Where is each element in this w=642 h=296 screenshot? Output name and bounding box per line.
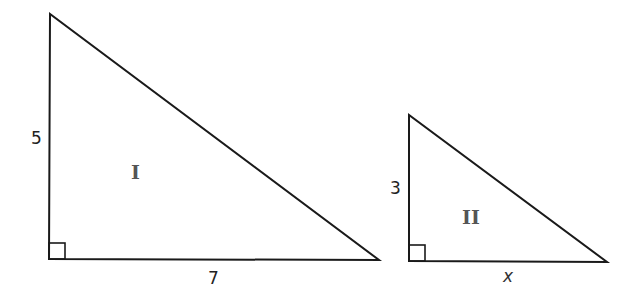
right-angle-marker-2 <box>409 245 425 261</box>
right-angle-marker-1 <box>49 243 65 259</box>
similar-triangles-diagram: 5 7 I 3 x II <box>0 0 642 296</box>
triangle-1-name: I <box>131 161 140 183</box>
triangle-1: 5 7 I <box>31 14 379 288</box>
triangle-1-vertical-leg-label: 5 <box>31 128 42 148</box>
triangle-2: 3 x II <box>390 115 607 286</box>
triangle-1-outline <box>49 14 379 260</box>
triangle-2-name: II <box>462 206 480 228</box>
triangle-2-vertical-leg-label: 3 <box>390 178 401 198</box>
triangle-2-horizontal-leg-label: x <box>502 266 514 286</box>
triangle-2-outline <box>409 115 607 262</box>
triangle-1-horizontal-leg-label: 7 <box>208 268 219 288</box>
